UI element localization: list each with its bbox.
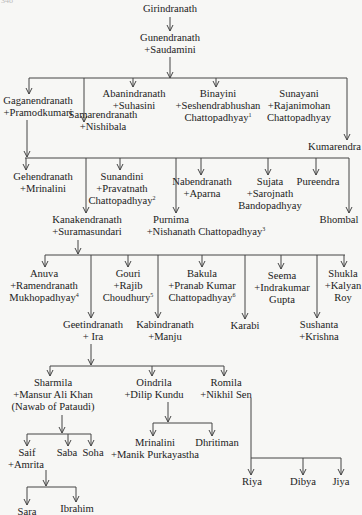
person-name: Binayini [176,88,261,100]
person-name: Purnima [147,214,266,226]
person-name: Gouri [103,268,154,280]
person-bakula: Bakula +Pranab Kumar Chattopadhyay6 [168,268,235,305]
person-saba: Saba [57,447,78,459]
person-bhombal: Bhombal [320,214,359,226]
person-kabindranath: Kabindranath +Manju [136,319,194,343]
person-name: Gaganendranath [3,95,72,107]
person-anuva: Anuva +Ramendranath Mukhopadhyay4 [9,268,79,305]
person-name: Sara [18,506,37,515]
person-gouri: Gouri +Rajib Choudhury5 [103,268,154,305]
spouse-name: +Pranab Kumar [168,280,235,292]
spouse-name: +Suramasundari [52,226,122,238]
person-name: Shukla [325,268,362,280]
footnote-marker: 4 [76,292,79,298]
person-saif: Saif [18,447,35,459]
spouse-surname: Roy [325,292,362,304]
spouse-name: +Aparna [172,188,231,200]
person-sushanta: Sushanta +Krishna [299,319,339,343]
person-name: Sharmila [12,377,95,389]
person-riya: Riya [242,476,262,488]
spouse-name: +Sarojnath [238,188,302,200]
spouse-surname: Choudhury5 [103,292,154,304]
person-name: Abanindranath [103,88,166,100]
person-name: Dibya [290,476,316,488]
spouse-name: +Pravatnath [88,183,155,195]
spouse-surname: Chattopadhyay [267,112,331,124]
person-sara: Sara [18,506,37,515]
person-purnima: Purnima +Nishanath Chattopadhyay3 [147,214,266,238]
person-name: Oindrila [124,377,183,389]
surname-text: Choudhury [103,292,151,303]
spouse-title: (Nawab of Pataudi) [12,401,95,413]
person-name: Saba [57,447,78,459]
footnote-marker: 3 [262,226,265,232]
person-name: Soha [82,447,103,459]
person-sujata: Sujata +Sarojnath Bandopadhyay [238,176,302,213]
spouse-surname: Mukhopadhyay4 [9,292,79,304]
person-name: Kanakendranath [52,214,122,226]
person-name: Sunayani [267,88,331,100]
spouse-name: +Mansur Ali Khan [12,389,95,401]
spouse-name: +Amrita [8,459,44,471]
person-name: Riya [242,476,262,488]
surname-text: Chattopadhyay [88,195,152,206]
spouse-name: +Seshendrabhushan [176,100,261,112]
footnote-marker: 5 [150,292,153,298]
spouse-name: +Indrakumar [254,282,309,294]
person-sharmila: Sharmila +Mansur Ali Khan (Nawab of Pata… [12,377,95,414]
spouse-name: +Rajib [103,280,154,292]
person-name: Romila [200,377,252,389]
person-geetindranath: Geetindranath + Ira [63,319,123,343]
person-shukla: Shukla +Kalyan Roy [325,268,362,305]
person-name: Pureendra [297,176,340,188]
spouse-name: +Mrinalini [13,183,72,195]
person-name: Ibrahim [60,503,94,515]
person-name: Girindranath [143,3,197,15]
person-name: Anuva [9,268,79,280]
person-karabi: Karabi [231,320,260,332]
person-soha: Soha [82,447,103,459]
spouse-name: +Manik Purkayastha [111,449,199,461]
spouse-name: +Nishibala [69,121,138,133]
saif-spouse: +Amrita [8,459,44,471]
person-nabendranath: Nabendranath +Aparna [172,176,231,200]
person-name: Bakula [168,268,235,280]
person-jiya: Jiya [332,476,349,488]
person-sunayani: Sunayani +Rajanimohan Chattopadhyay [267,88,331,125]
person-name: Kumarendra [308,141,361,153]
person-abanindranath: Abanindranath +Suhasini [103,88,166,112]
person-kanakendranath: Kanakendranath +Suramasundari [52,214,122,238]
spouse-name: +Pramodkumari [3,107,72,119]
person-ibrahim: Ibrahim [60,503,94,515]
person-dhritiman: Dhritiman [195,437,239,449]
person-mrinalini: Mrinalini +Manik Purkayastha [111,437,199,461]
spouse-name: +Manju [136,331,194,343]
person-gunendranath: Gunendranath +Saudamini [140,32,200,56]
person-name: Saif [18,447,35,459]
person-name: Gunendranath [140,32,200,44]
person-name: Jiya [332,476,349,488]
spouse-surname: Chattopadhyay2 [88,195,155,207]
spouse-name: +Rajanimohan [267,100,331,112]
footnote-marker: 6 [233,292,236,298]
spouse-surname: Bandopadhyay [238,200,302,212]
person-samarendranath: Samarendranath +Nishibala [69,109,138,133]
person-name: Sushanta [299,319,339,331]
person-binayini: Binayini +Seshendrabhushan Chattopadhyay… [176,88,261,125]
spouse-name: +Ramendranath [9,280,79,292]
person-name: Nabendranath [172,176,231,188]
person-name: Sunandini [88,171,155,183]
surname-text: Chattopadhyay [168,292,232,303]
person-dibya: Dibya [290,476,316,488]
surname-text: Mukhopadhyay [9,292,76,303]
person-name: Dhritiman [195,437,239,449]
person-gaganendranath: Gaganendranath +Pramodkumari [3,95,72,119]
person-name: Karabi [231,320,260,332]
person-kumarendra: Kumarendra [308,141,361,153]
person-name: Mrinalini [111,437,199,449]
person-pureendra: Pureendra [297,176,340,188]
person-name: Sujata [238,176,302,188]
person-name: Kabindranath [136,319,194,331]
footnote-marker: 2 [153,195,156,201]
person-gehendranath: Gehendranath +Mrinalini [13,171,72,195]
